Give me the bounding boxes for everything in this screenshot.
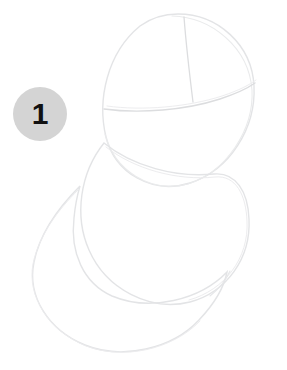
step-badge: 1 — [13, 87, 67, 141]
step-badge-number: 1 — [32, 99, 49, 129]
bottom-oval-second-pass — [32, 190, 200, 352]
head-vertical-guideline — [184, 17, 193, 102]
tutorial-step-image: 1 — [0, 0, 287, 370]
bottom-oval-shape — [33, 186, 227, 352]
drawing-canvas — [0, 0, 287, 370]
head-brow-guideline — [104, 83, 255, 111]
head-circle-shape — [103, 14, 254, 186]
